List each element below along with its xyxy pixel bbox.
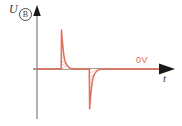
x-axis-symbol: t	[163, 73, 166, 84]
negative-spike-curve	[89, 69, 158, 109]
waveform-figure: U B t 0V	[0, 0, 182, 126]
zero-volt-annotation: 0V	[136, 56, 148, 65]
y-axis-symbol: U	[9, 3, 18, 15]
x-axis-arrow-icon	[159, 64, 175, 75]
y-axis-arrow-icon	[33, 5, 41, 16]
y-axis-subscript-circled: B	[19, 8, 32, 21]
